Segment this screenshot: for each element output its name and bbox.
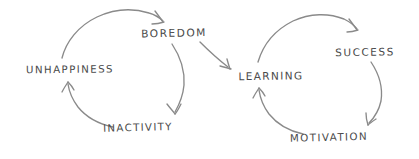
edge-inactivity-to-unhappiness [62,82,113,127]
edge-motivation-to-learning [253,88,303,134]
edge-boredom-to-inactivity [167,44,184,114]
diagram-canvas: .ink { fill: none; stroke: #8a8a8a; stro… [0,0,419,159]
node-label-unhappiness: UNHAPPINESS [26,64,114,75]
node-label-success: SUCCESS [335,46,395,57]
node-label-inactivity: INACTIVITY [103,122,173,134]
node-label-motivation: MOTIVATION [290,131,368,143]
connector-boredom-to-learning [200,42,231,69]
edge-success-to-motivation [366,62,382,125]
node-label-boredom: BOREDOM [141,27,207,39]
node-label-learning: LEARNING [238,70,303,81]
